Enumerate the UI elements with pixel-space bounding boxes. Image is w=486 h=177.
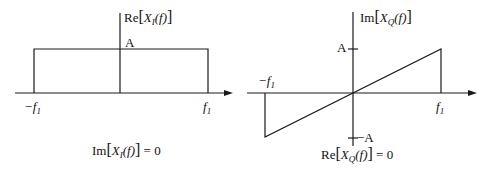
- right-caption: Re[XQ(f)] = 0: [321, 147, 393, 166]
- tick-sub: 1: [207, 106, 212, 116]
- tick-sub: 1: [270, 80, 275, 90]
- bracket-close: ]: [407, 8, 412, 25]
- caption-prefix: Im: [92, 143, 106, 158]
- left-level-label: A: [125, 36, 134, 50]
- right-tick-neg-f1: −f1: [258, 74, 275, 92]
- left-caption: Im[XI(f)] = 0: [92, 143, 161, 162]
- tick-text: −f: [258, 73, 270, 88]
- caption-prefix: Re: [321, 147, 335, 162]
- label-var: X: [380, 10, 388, 25]
- left-y-axis-label: Re[XI(f)]: [124, 10, 172, 29]
- left-tick-neg-f1: −f1: [24, 100, 41, 118]
- right-tick-pos-f1: f1: [436, 100, 444, 118]
- label-prefix: Re: [124, 10, 138, 25]
- bracket-close: ]: [167, 8, 172, 25]
- tick-text: −f: [24, 99, 36, 114]
- tick-sub: 1: [36, 106, 41, 116]
- caption-arg: (f): [123, 143, 135, 158]
- tick-sub: 1: [440, 106, 445, 116]
- left-rect-spectrum: [34, 49, 208, 93]
- label-arg: (f): [394, 10, 406, 25]
- left-x-axis-arrow-icon: [224, 90, 233, 96]
- diagram-canvas: [0, 0, 486, 177]
- label-var: X: [144, 10, 152, 25]
- right-neg-level-label: −A: [357, 131, 374, 145]
- right-x-axis-arrow-icon: [468, 90, 477, 96]
- left-tick-pos-f1: f1: [203, 100, 211, 118]
- right-y-axis-label: Im[XQ(f)]: [360, 10, 412, 29]
- caption-eq: = 0: [373, 147, 393, 162]
- right-pos-level-label: A: [337, 41, 346, 55]
- caption-eq: = 0: [140, 143, 160, 158]
- label-prefix: Im: [360, 10, 374, 25]
- caption-var: X: [341, 147, 349, 162]
- caption-var: X: [112, 143, 120, 158]
- caption-arg: (f): [355, 147, 367, 162]
- right-panel-graphics: [247, 12, 477, 146]
- label-arg: (f): [155, 10, 167, 25]
